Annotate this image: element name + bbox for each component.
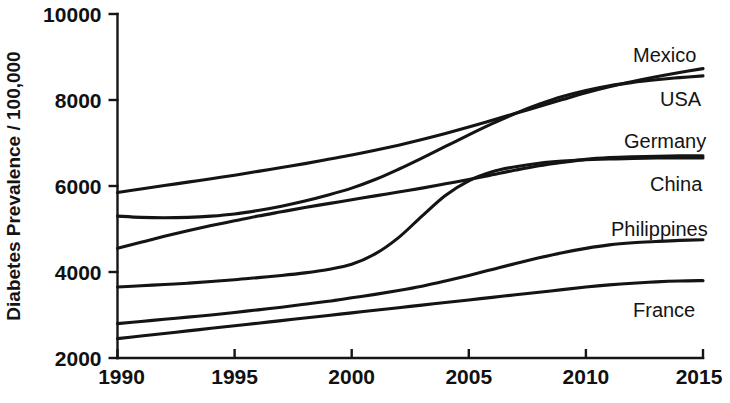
x-axis-tick-labels: 199019952000200520102015 bbox=[98, 365, 723, 388]
y-tick-label-2000: 2000 bbox=[55, 347, 102, 370]
series-lines-group bbox=[118, 69, 704, 339]
x-tick-label-1990: 1990 bbox=[98, 365, 145, 388]
y-axis-group: 200040006000800010000 Diabetes Prevalenc… bbox=[3, 3, 119, 370]
x-tick-label-2005: 2005 bbox=[445, 365, 492, 388]
x-axis-group: 199019952000200520102015 bbox=[98, 349, 723, 388]
y-tick-label-4000: 4000 bbox=[55, 261, 102, 284]
x-tick-label-2010: 2010 bbox=[563, 365, 610, 388]
y-tick-label-8000: 8000 bbox=[55, 89, 102, 112]
series-label-germany: Germany bbox=[624, 130, 706, 152]
y-axis-tick-labels: 200040006000800010000 bbox=[43, 3, 101, 370]
series-label-mexico: Mexico bbox=[633, 44, 696, 66]
series-line-usa bbox=[118, 76, 704, 218]
x-tick-label-2015: 2015 bbox=[676, 365, 723, 388]
y-axis-title: Diabetes Prevalence / 100,000 bbox=[3, 51, 24, 320]
chart-canvas: 200040006000800010000 Diabetes Prevalenc… bbox=[0, 0, 730, 403]
series-label-usa: USA bbox=[660, 88, 702, 110]
series-line-mexico bbox=[118, 69, 704, 193]
series-label-china: China bbox=[650, 173, 703, 195]
x-tick-label-2000: 2000 bbox=[328, 365, 375, 388]
diabetes-prevalence-chart: 200040006000800010000 Diabetes Prevalenc… bbox=[0, 0, 730, 403]
x-tick-label-1995: 1995 bbox=[211, 365, 258, 388]
y-tick-label-10000: 10000 bbox=[43, 3, 101, 26]
y-tick-label-6000: 6000 bbox=[55, 175, 102, 198]
series-label-philippines: Philippines bbox=[611, 218, 708, 240]
series-label-france: France bbox=[633, 299, 695, 321]
